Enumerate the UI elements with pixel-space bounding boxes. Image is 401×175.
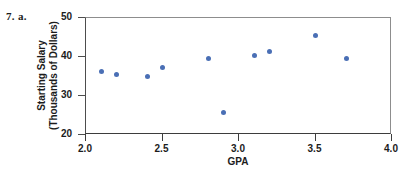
data-point (99, 69, 104, 74)
x-tick-mark (162, 134, 163, 141)
x-axis-title: GPA (85, 156, 391, 167)
plot-area (85, 17, 391, 134)
x-tick-mark (238, 134, 239, 141)
y-tick-label: 50 (46, 12, 72, 22)
problem-number-label: 7. a. (6, 10, 27, 22)
y-tick-mark (78, 56, 85, 57)
x-tick-mark (85, 134, 86, 141)
y-axis-title: Starting Salary (Thousands of Dollars) (34, 17, 62, 134)
data-point (221, 110, 226, 115)
data-point (114, 72, 119, 77)
scatter-plot-figure: 7. a. Starting Salary (Thousands of Doll… (0, 0, 401, 175)
y-tick-mark (78, 95, 85, 96)
x-tick-label: 2.0 (68, 143, 102, 154)
data-point (145, 74, 150, 79)
y-tick-mark (78, 134, 85, 135)
y-tick-label: 40 (46, 51, 72, 61)
data-point (252, 53, 257, 58)
y-tick-label: 30 (46, 90, 72, 100)
x-tick-mark (315, 134, 316, 141)
data-point (313, 33, 318, 38)
x-tick-label: 4.0 (374, 143, 401, 154)
data-point (206, 56, 211, 61)
data-points-layer (86, 18, 392, 135)
y-tick-label: 20 (46, 129, 72, 139)
x-tick-label: 3.0 (221, 143, 255, 154)
data-point (267, 49, 272, 54)
x-tick-mark (391, 134, 392, 141)
x-tick-label: 2.5 (145, 143, 179, 154)
data-point (160, 65, 165, 70)
x-tick-label: 3.5 (298, 143, 332, 154)
y-tick-mark (78, 17, 85, 18)
y-axis-title-line2: (Thousands of Dollars) (48, 21, 60, 130)
data-point (344, 56, 349, 61)
